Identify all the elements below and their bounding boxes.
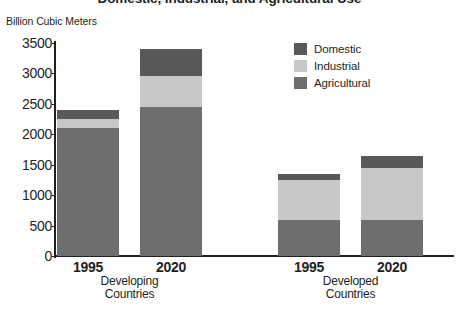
y-axis-tick-label: 1500 bbox=[4, 158, 52, 172]
chart-title: Domestic, Industrial, and Agricultural U… bbox=[0, 0, 459, 6]
plot-area bbox=[55, 43, 453, 256]
bar-stack[interactable] bbox=[140, 49, 202, 256]
x-axis-group-label: DevelopingCountries bbox=[50, 275, 210, 301]
x-axis-year-label: 1995 bbox=[264, 259, 354, 275]
bar-stack[interactable] bbox=[278, 174, 340, 256]
x-axis-group-label-line2: Countries bbox=[271, 288, 431, 301]
legend-label: Industrial bbox=[314, 60, 360, 72]
bar-segment-agricultural bbox=[57, 128, 119, 256]
bar-segment-agricultural bbox=[278, 220, 340, 257]
bar-segment-industrial bbox=[278, 180, 340, 220]
chart-container: Domestic, Industrial, and Agricultural U… bbox=[0, 0, 459, 320]
y-axis-tick-label: 3000 bbox=[4, 66, 52, 80]
x-axis-labels: 1995202019952020DevelopingCountriesDevel… bbox=[0, 259, 459, 319]
legend-label: Agricultural bbox=[314, 77, 370, 89]
legend-swatch-icon bbox=[294, 60, 307, 72]
y-axis-tick-label: 2500 bbox=[4, 97, 52, 111]
bar-segment-industrial bbox=[57, 119, 119, 128]
chart-legend: DomesticIndustrialAgricultural bbox=[294, 41, 370, 92]
bar-stack[interactable] bbox=[361, 156, 423, 256]
bar-stack[interactable] bbox=[57, 110, 119, 256]
x-axis-year-label: 2020 bbox=[126, 259, 216, 275]
y-axis-tick-label: 3500 bbox=[4, 36, 52, 50]
x-axis-group-label: DevelopedCountries bbox=[271, 275, 431, 301]
bar-segment-domestic bbox=[361, 156, 423, 168]
x-axis-year-label: 2020 bbox=[347, 259, 437, 275]
bar-segment-agricultural bbox=[361, 220, 423, 257]
legend-swatch-icon bbox=[294, 43, 307, 55]
x-axis-group-label-line2: Countries bbox=[50, 288, 210, 301]
legend-item[interactable]: Industrial bbox=[294, 58, 370, 74]
bar-segment-industrial bbox=[140, 76, 202, 106]
legend-label: Domestic bbox=[314, 43, 361, 55]
legend-item[interactable]: Domestic bbox=[294, 41, 370, 57]
y-axis-tick-label: 1000 bbox=[4, 188, 52, 202]
y-axis-tick-label: 500 bbox=[4, 219, 52, 233]
legend-item[interactable]: Agricultural bbox=[294, 75, 370, 91]
bar-segment-agricultural bbox=[140, 107, 202, 256]
bar-segment-domestic bbox=[57, 110, 119, 119]
legend-swatch-icon bbox=[294, 77, 307, 89]
y-axis-tick-label: 2000 bbox=[4, 127, 52, 141]
bar-segment-domestic bbox=[140, 49, 202, 76]
x-axis-year-label: 1995 bbox=[43, 259, 133, 275]
bar-segment-industrial bbox=[361, 168, 423, 220]
